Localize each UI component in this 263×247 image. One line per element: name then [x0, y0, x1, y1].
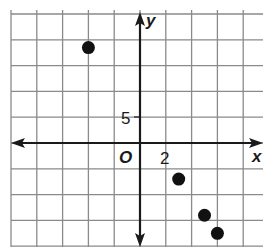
data-point — [172, 173, 185, 186]
data-point — [198, 209, 211, 222]
data-point — [211, 227, 224, 240]
y-tick-label: 5 — [121, 109, 130, 128]
x-tick-label: 2 — [160, 149, 169, 168]
origin-label: O — [119, 148, 132, 167]
data-point — [82, 41, 95, 54]
x-axis-label: x — [251, 147, 263, 166]
grid-lines — [11, 10, 263, 247]
data-points — [82, 41, 224, 240]
y-axis-label: y — [145, 11, 157, 30]
axes — [11, 12, 263, 247]
scatter-plot: y x O 2 5 — [0, 0, 263, 247]
